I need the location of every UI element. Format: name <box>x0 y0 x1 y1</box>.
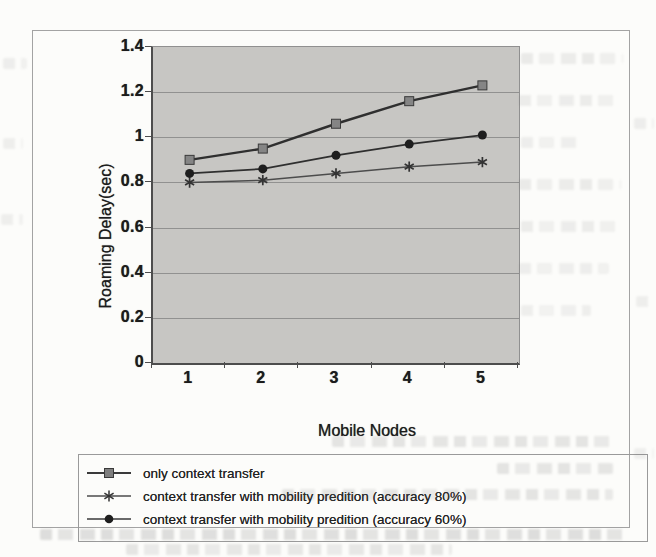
asterisk-marker-icon <box>87 488 131 504</box>
circle-data-marker <box>185 169 194 178</box>
square-data-marker <box>185 155 194 164</box>
square-data-marker <box>332 119 341 128</box>
legend-item-accuracy-80: context transfer with mobility predition… <box>87 487 466 505</box>
legend-item-accuracy-60: context transfer with mobility predition… <box>87 510 466 528</box>
square-data-marker <box>405 97 414 106</box>
legend-item-only-context-transfer: only context transfer <box>87 464 265 482</box>
chart-legend: only context transfer context transfer w… <box>78 454 648 542</box>
circle-data-marker <box>478 131 487 140</box>
square-data-marker <box>258 144 267 153</box>
series-plot <box>153 47 519 363</box>
circle-data-marker <box>332 151 341 160</box>
circle-marker-icon <box>87 511 131 527</box>
bleedthrough-text <box>1 214 23 225</box>
bleedthrough-text <box>126 544 452 555</box>
legend-label: context transfer with mobility predition… <box>143 489 466 504</box>
bleedthrough-text <box>3 138 23 149</box>
plot-area <box>151 46 520 365</box>
bleedthrough-text <box>634 118 654 129</box>
square-data-marker <box>478 81 487 90</box>
circle-data-marker <box>258 164 267 173</box>
bleedthrough-text <box>636 296 654 307</box>
circle-data-marker <box>405 140 414 149</box>
square-marker-icon <box>87 465 131 481</box>
legend-label: context transfer with mobility predition… <box>143 512 466 527</box>
bleedthrough-text <box>3 58 27 69</box>
x-axis-title: Mobile Nodes <box>277 422 457 440</box>
legend-label: only context transfer <box>143 466 265 481</box>
